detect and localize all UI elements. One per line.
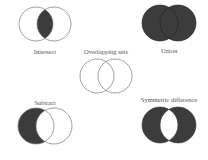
overlapping-sets-label: Overlapping sets (84, 49, 128, 56)
intersect-label: Intersect (34, 49, 56, 56)
symmetric-difference-diagram (142, 107, 196, 143)
subtract-diagram (18, 108, 72, 144)
symmetric-difference-label: Symmetric difference (141, 97, 197, 104)
venn-diagrams (0, 0, 208, 160)
union-label: Union (161, 48, 177, 55)
subtract-label: Subtract (34, 100, 56, 107)
overlapping-sets-diagram (80, 59, 132, 93)
union-diagram (142, 5, 196, 41)
intersect-diagram (19, 7, 71, 41)
